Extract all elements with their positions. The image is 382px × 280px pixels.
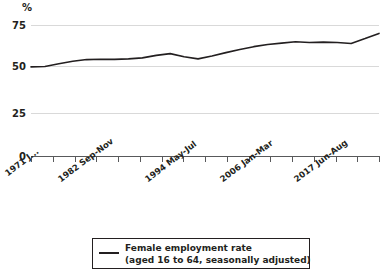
y-tick-label-50: 50: [0, 61, 26, 72]
gridline-50: [31, 66, 379, 67]
gridline-75: [31, 25, 379, 26]
legend-text-block: Female employment rate (aged 16 to 64, s…: [125, 242, 311, 266]
y-tick-label-75: 75: [0, 20, 26, 31]
x-axis-tick: [53, 157, 54, 162]
legend-label-line1: Female employment rate: [125, 242, 311, 254]
x-axis-tick: [227, 157, 228, 162]
x-axis-tick: [205, 157, 206, 162]
gridline-25: [31, 113, 379, 114]
employment-rate-line-chart: % 75 50 25 0 1971 J... 1982 Sep-Nov 1994…: [0, 0, 382, 280]
legend-line-swatch: [99, 252, 119, 254]
legend-label-line2: (aged 16 to 64, seasonally adjusted): [125, 254, 311, 266]
x-axis-tick: [357, 157, 358, 162]
series-line-female-employment-rate: [31, 33, 379, 67]
x-tick-label-3: 1994 May-Jul: [143, 139, 198, 184]
x-axis-tick: [140, 157, 141, 162]
x-axis-tick: [379, 157, 380, 162]
x-tick-label-5: 2017 Jun-Aug: [292, 137, 349, 184]
x-axis-tick: [118, 157, 119, 162]
x-tick-label-2: 1982 Sep-Nov: [56, 136, 115, 184]
x-axis-tick: [270, 157, 271, 162]
x-axis-tick: [292, 157, 293, 162]
chart-legend: Female employment rate (aged 16 to 64, s…: [92, 238, 310, 269]
y-tick-label-25: 25: [0, 108, 26, 119]
y-axis-unit-label: %: [22, 2, 32, 13]
x-axis-tick: [336, 157, 337, 162]
